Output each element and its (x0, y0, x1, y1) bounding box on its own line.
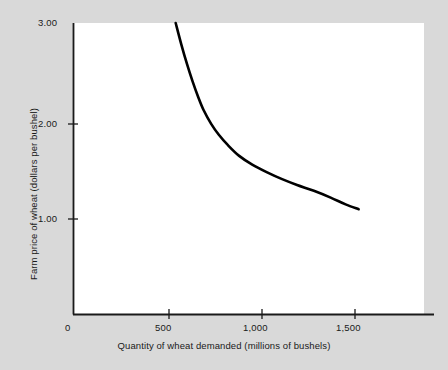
x-axis-title: Quantity of wheat demanded (millions of … (0, 340, 448, 351)
x-tick-label-0: 0 (65, 322, 70, 333)
x-tick-label-500: 500 (155, 322, 171, 333)
y-tick-label-1: 1.00 (38, 213, 57, 224)
y-tick-label-3: 3.00 (38, 17, 57, 28)
chart-canvas (0, 0, 448, 370)
chart-figure: Farm price of wheat (dollars per bushel)… (0, 0, 448, 370)
x-tick-label-1500: 1,500 (336, 322, 361, 333)
y-axis-title: Farm price of wheat (dollars per bushel) (28, 108, 39, 280)
x-tick-label-1000: 1,000 (243, 322, 268, 333)
y-tick-label-2: 2.00 (38, 118, 57, 129)
plot-area-background (73, 23, 424, 314)
